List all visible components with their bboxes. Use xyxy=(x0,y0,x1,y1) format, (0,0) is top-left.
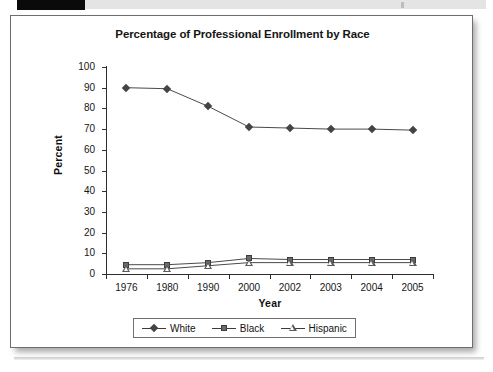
data-point-hispanic-2002 xyxy=(286,259,294,266)
plot-area xyxy=(106,67,433,274)
scan-black-bar xyxy=(17,0,85,10)
x-tick xyxy=(106,274,107,279)
data-point-hispanic-1976 xyxy=(122,265,130,272)
y-tick-label: 20 xyxy=(61,228,95,238)
y-tick-label: 0 xyxy=(61,269,95,279)
y-tick-label: 10 xyxy=(61,248,95,258)
legend-item-white: White xyxy=(142,323,196,334)
x-tick xyxy=(270,274,271,279)
card-shadow xyxy=(14,357,484,360)
y-tick-label: 90 xyxy=(61,83,95,93)
legend-item-hispanic: Hispanic xyxy=(281,323,347,334)
x-tick xyxy=(433,274,434,279)
chart-legend: White Black Hispanic xyxy=(133,318,356,338)
figure-card: Percentage of Professional Enrollment by… xyxy=(10,15,473,348)
x-tick xyxy=(147,274,148,279)
x-tick-label: 1980 xyxy=(145,282,189,293)
x-tick-label: 2000 xyxy=(227,282,271,293)
legend-label: Black xyxy=(240,323,264,334)
scan-gray-tick xyxy=(401,2,404,8)
data-point-hispanic-2000 xyxy=(245,259,253,266)
data-point-hispanic-2004 xyxy=(368,259,376,266)
x-axis-label: Year xyxy=(106,297,434,309)
data-point-hispanic-2005 xyxy=(409,259,417,266)
x-tick-label: 1990 xyxy=(186,282,230,293)
x-tick-label: 2002 xyxy=(268,282,312,293)
data-point-hispanic-2003 xyxy=(327,259,335,266)
y-tick-label: 50 xyxy=(61,166,95,176)
series-line-white xyxy=(126,88,412,130)
x-tick xyxy=(229,274,230,279)
scan-gray-bar xyxy=(85,0,486,9)
x-tick-label: 2003 xyxy=(309,282,353,293)
scan-top-strip xyxy=(0,0,493,13)
series-lines xyxy=(106,67,433,274)
y-tick-label: 40 xyxy=(61,186,95,196)
legend-item-black: Black xyxy=(212,323,264,334)
x-tick-label: 2004 xyxy=(350,282,394,293)
square-icon xyxy=(212,323,236,334)
x-tick xyxy=(392,274,393,279)
y-tick-label: 80 xyxy=(61,103,95,113)
data-point-hispanic-1990 xyxy=(204,262,212,269)
legend-label: Hispanic xyxy=(309,323,347,334)
x-tick xyxy=(351,274,352,279)
chart-title: Percentage of Professional Enrollment by… xyxy=(11,28,474,40)
y-tick-label: 60 xyxy=(61,145,95,155)
diamond-icon xyxy=(142,323,166,334)
x-tick-label: 2005 xyxy=(391,282,435,293)
triangle-icon xyxy=(281,323,305,334)
x-tick-label: 1976 xyxy=(104,282,148,293)
x-tick xyxy=(310,274,311,279)
legend-label: White xyxy=(170,323,196,334)
x-tick xyxy=(188,274,189,279)
y-tick-label: 70 xyxy=(61,124,95,134)
data-point-hispanic-1980 xyxy=(163,265,171,272)
y-tick-label: 100 xyxy=(61,62,95,72)
y-tick-label: 30 xyxy=(61,207,95,217)
